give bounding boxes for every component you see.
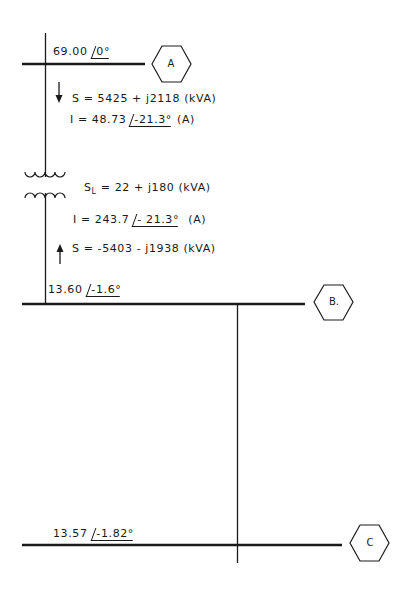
bus-a-angle: 0° <box>90 46 112 59</box>
sending-current: I = 48.73-21.3° (A) <box>70 114 195 127</box>
bus-b-voltage: 13.60 <box>48 283 83 296</box>
sending-current-angle: -21.3° <box>129 114 175 127</box>
bus-c-angle: -1.82° <box>90 528 136 541</box>
receiving-current: I = 243.7- 21.3° (A) <box>73 214 206 227</box>
bus-b-angle: -1.6° <box>85 284 124 297</box>
bus-c-voltage-label: 13.57-1.82° <box>53 528 134 541</box>
sending-power: S = 5425 + j2118 (kVA) <box>72 93 216 104</box>
bus-b-voltage-label: 13.60-1.6° <box>48 284 121 297</box>
receiving-power: S = -5403 - j1938 (kVA) <box>72 243 216 254</box>
up-arrow-icon <box>57 244 64 264</box>
transformer-loss: SL = 22 + j180 (kVA) <box>84 182 211 196</box>
bus-a-voltage-label: 69.000° <box>53 46 110 59</box>
bus-c-voltage: 13.57 <box>53 527 88 540</box>
down-arrow-icon <box>56 82 63 103</box>
bus-c-hex-label: C <box>350 538 390 548</box>
bus-a-hex-label: A <box>151 59 191 69</box>
receiving-current-angle: - 21.3° <box>132 214 182 227</box>
bus-a-voltage: 69.00 <box>53 45 88 58</box>
bus-b-hex-label: B. <box>314 297 354 307</box>
